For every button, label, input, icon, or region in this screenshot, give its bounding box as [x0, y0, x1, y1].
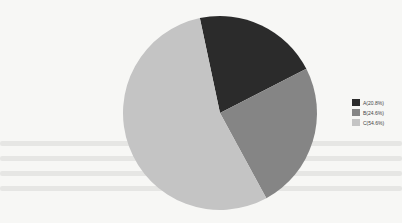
legend-swatch-b [352, 109, 360, 116]
legend-swatch-c [352, 119, 360, 126]
legend-label-a: A(20.8%) [363, 100, 384, 106]
pie-slices [123, 16, 317, 210]
legend-item-b: B(24.6%) [352, 108, 384, 117]
legend: A(20.8%) B(24.6%) C(54.6%) [352, 98, 384, 128]
legend-label-b: B(24.6%) [363, 110, 384, 116]
legend-item-c: C(54.6%) [352, 118, 384, 127]
legend-item-a: A(20.8%) [352, 98, 384, 107]
legend-swatch-a [352, 99, 360, 106]
legend-label-c: C(54.6%) [363, 120, 384, 126]
pie-chart [0, 0, 402, 223]
